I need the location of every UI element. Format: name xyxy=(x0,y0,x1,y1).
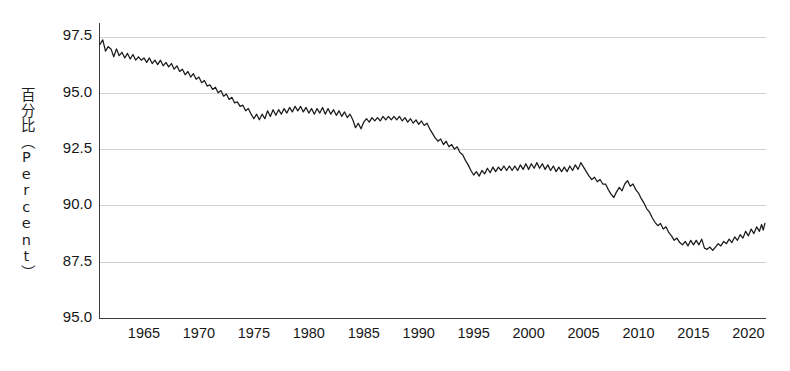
x-tick-label: 1990 xyxy=(403,325,435,341)
x-tick-labels: 1965197019751980198519901995200020052010… xyxy=(128,325,765,341)
y-tick-label: 92.5 xyxy=(63,139,92,156)
y-tick-label: 95.0 xyxy=(63,83,92,100)
x-tick-label: 1970 xyxy=(183,325,215,341)
x-tick-label: 2005 xyxy=(567,325,599,341)
x-tick-label: 1995 xyxy=(458,325,490,341)
series-line-percent xyxy=(100,40,765,251)
axis-lines xyxy=(99,23,766,319)
x-tick-label: 2020 xyxy=(732,325,764,341)
x-tick-label: 1965 xyxy=(128,325,160,341)
x-tick-label: 1985 xyxy=(348,325,380,341)
line-chart-plot: 97.595.092.590.087.595.0 196519701975198… xyxy=(0,0,790,371)
gridlines xyxy=(100,38,766,263)
y-tick-label: 90.0 xyxy=(63,195,92,212)
x-tick-label: 1980 xyxy=(293,325,325,341)
data-series xyxy=(100,40,765,251)
x-tick-label: 2000 xyxy=(512,325,544,341)
y-tick-labels: 97.595.092.590.087.595.0 xyxy=(63,26,92,324)
x-tick-label: 1975 xyxy=(238,325,270,341)
chart-figure: 百分比（Percent） 97.595.092.590.087.595.0 19… xyxy=(0,0,790,371)
x-tick-label: 2015 xyxy=(677,325,709,341)
y-tick-label: 87.5 xyxy=(63,252,92,269)
x-tick-label: 2010 xyxy=(622,325,654,341)
y-tick-label: 95.0 xyxy=(63,308,92,325)
y-tick-label: 97.5 xyxy=(63,26,92,43)
